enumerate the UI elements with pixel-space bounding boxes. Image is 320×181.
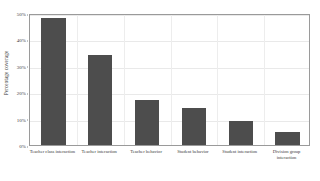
x-axis-tick-labels: Teacher class interactionTeacher interac…	[29, 149, 310, 179]
bar	[88, 55, 112, 145]
bar	[229, 121, 253, 145]
y-axis-tick-labels: 0%10%20%30%40%50%	[11, 14, 28, 146]
x-axis-tick-label: Student behavior	[170, 149, 217, 155]
plot-area	[29, 14, 310, 146]
x-axis-tick-label: Teacher behavior	[123, 149, 170, 155]
y-axis-tick-label: 30%	[17, 64, 26, 69]
bar	[182, 108, 206, 145]
y-axis-tick-label: 20%	[17, 91, 26, 96]
x-axis-tick-label: Teacher interaction	[76, 149, 123, 155]
x-axis-tick-label: Student interaction	[216, 149, 263, 155]
y-axis-title-label: Percentage coverage	[3, 51, 9, 96]
y-axis-tick-label: 40%	[17, 38, 26, 43]
bar	[275, 132, 299, 145]
bar	[135, 100, 159, 145]
bar	[41, 18, 65, 145]
y-axis-tick-label: 0%	[19, 144, 26, 149]
bar-chart-figure: Percentage coverage 0%10%20%30%40%50% Te…	[0, 0, 320, 181]
y-axis-tick-label: 10%	[17, 117, 26, 122]
y-axis-tick-label: 50%	[17, 12, 26, 17]
x-axis-tick-label: Division group interaction	[263, 149, 310, 161]
x-axis-tick-label: Teacher class interaction	[29, 149, 76, 155]
bars-layer	[30, 15, 309, 145]
